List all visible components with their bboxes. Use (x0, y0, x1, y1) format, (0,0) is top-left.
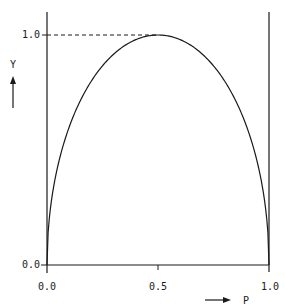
x-axis-label: P (243, 295, 249, 306)
y-tick-label-1: 1.0 (22, 29, 40, 40)
up-arrow-icon (10, 76, 16, 84)
data-curve (47, 35, 269, 265)
right-arrow-icon (223, 297, 231, 303)
x-tick-label-1: 1.0 (261, 281, 279, 292)
chart-canvas: 1.0 0.0 0.0 0.5 1.0 Y P (0, 0, 285, 307)
x-tick-label-0: 0.0 (38, 281, 56, 292)
x-tick-label-0-5: 0.5 (149, 281, 167, 292)
y-axis-label: Y (10, 59, 16, 70)
y-tick-label-0: 0.0 (22, 259, 40, 270)
